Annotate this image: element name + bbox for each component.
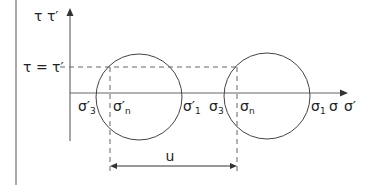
sigma1-label: σ1 xyxy=(311,98,326,116)
sigma-axis-arrow-icon xyxy=(340,90,348,97)
sigma1-eff-label: σ′1 xyxy=(183,98,201,116)
sigman-label: σn xyxy=(240,98,255,116)
sigma3-label: σ3 xyxy=(209,98,224,116)
dimension-arrow-left-icon xyxy=(110,163,117,169)
tau-axis-label: τ τ′ xyxy=(34,8,59,24)
tau-axis-arrow-icon xyxy=(67,8,74,16)
sigma-axis-label: σ xyxy=(329,98,338,114)
sigman-eff-label: σ′n xyxy=(113,98,131,116)
sigma-eff-axis-label: σ′ xyxy=(344,98,356,114)
shear-level-label: τ = τ′ xyxy=(23,59,64,75)
mohr-circle-diagram: τ τ′ τ = τ′ σ′3 σ′n σ′1 σ3 σn σ1 σ σ′ u xyxy=(0,0,378,185)
dimension-arrow-right-icon xyxy=(230,163,237,169)
pore-pressure-label: u xyxy=(166,148,175,164)
effective-stress-circle xyxy=(96,54,182,140)
sigma3-eff-label: σ′3 xyxy=(78,98,96,116)
